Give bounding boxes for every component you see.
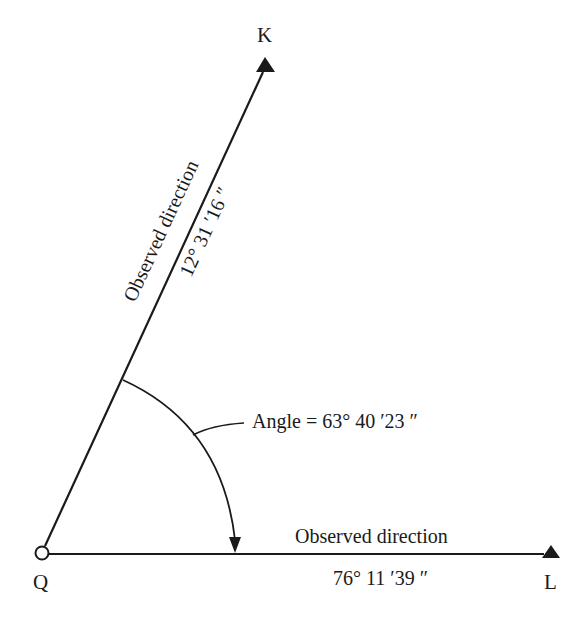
angle-leader-line [193,423,244,435]
line-qk [45,72,263,546]
point-l-label: L [544,570,557,594]
point-l-marker [542,545,560,558]
point-q-label: Q [33,570,48,594]
line-ql-value: 76° 11 ′39 ″ [333,567,428,589]
angle-arrowhead-icon [229,537,241,553]
angle-label: Angle = 63° 40 ′23 ″ [252,410,418,433]
angle-arc [123,380,235,540]
line-ql-caption: Observed direction [295,525,448,547]
point-k-marker [256,57,275,72]
point-q-marker [36,547,49,560]
angle-diagram: K Q L Observed direction 12° 31 ′16 ″ Ob… [0,0,588,634]
point-k-label: K [257,23,272,47]
